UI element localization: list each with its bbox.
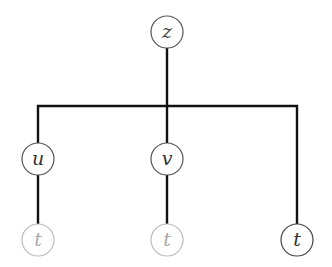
node-label-u: u [32, 147, 44, 169]
node-label-t2: t [163, 228, 171, 250]
node-label-t3: t [293, 228, 301, 250]
node-label-z: z [161, 20, 173, 42]
node-z: z [151, 16, 183, 48]
edges [38, 48, 297, 224]
node-v: v [151, 143, 183, 175]
node-label-v: v [162, 147, 173, 169]
node-t-faded-left: t [22, 224, 54, 256]
node-label-t1: t [34, 228, 42, 250]
node-t-right: t [281, 224, 313, 256]
tree-diagram: z u v t t t [0, 0, 332, 267]
node-t-faded-center: t [151, 224, 183, 256]
node-u: u [22, 143, 54, 175]
